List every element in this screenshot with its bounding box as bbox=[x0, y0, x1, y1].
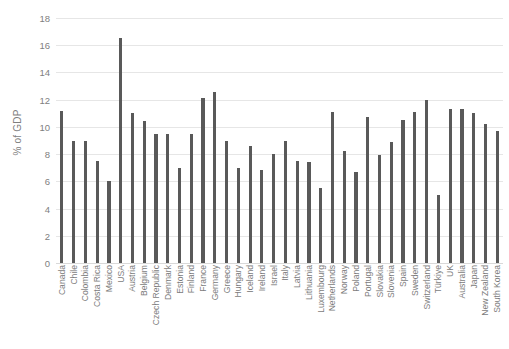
x-label-slot: Estonia bbox=[174, 265, 186, 349]
x-tick-label: New Zealand bbox=[481, 265, 490, 316]
y-tick-label: 10 bbox=[26, 121, 50, 132]
x-label-slot: USA bbox=[115, 265, 127, 349]
x-label-slot: Iceland bbox=[244, 265, 256, 349]
y-tick-label: 8 bbox=[26, 149, 50, 160]
x-tick-label: Slovakia bbox=[375, 265, 384, 297]
bar-chart: % of GDP 024681012141618 CanadaChileColo… bbox=[0, 0, 509, 349]
x-tick-label: Switzerland bbox=[422, 265, 431, 309]
bar-slot bbox=[468, 18, 480, 263]
x-tick-label: Canada bbox=[58, 265, 67, 295]
y-tick-label: 2 bbox=[26, 230, 50, 241]
bar bbox=[401, 120, 404, 263]
x-tick-label: Türkiye bbox=[434, 265, 443, 293]
bar bbox=[354, 172, 357, 263]
x-tick-label: Denmark bbox=[163, 265, 172, 300]
x-tick-label: South Korea bbox=[493, 265, 502, 313]
x-tick-label: Czech Republic bbox=[152, 265, 161, 325]
bar-slot bbox=[385, 18, 397, 263]
bar-slot bbox=[56, 18, 68, 263]
x-label-slot: Greece bbox=[221, 265, 233, 349]
bar-slot bbox=[68, 18, 80, 263]
bar bbox=[449, 109, 452, 263]
x-tick-label: Israel bbox=[269, 265, 278, 286]
bar bbox=[296, 161, 299, 263]
bar-slot bbox=[433, 18, 445, 263]
bar-slot bbox=[374, 18, 386, 263]
x-tick-label: Luxembourg bbox=[316, 265, 325, 313]
bar bbox=[284, 141, 287, 264]
x-label-slot: Slovenia bbox=[385, 265, 397, 349]
x-label-slot: Switzerland bbox=[421, 265, 433, 349]
bar-slot bbox=[397, 18, 409, 263]
bar-slot bbox=[480, 18, 492, 263]
bar bbox=[190, 134, 193, 263]
plot-area bbox=[56, 18, 503, 263]
bar-slot bbox=[409, 18, 421, 263]
bar bbox=[225, 141, 228, 264]
x-label-slot: France bbox=[197, 265, 209, 349]
bar-series bbox=[56, 18, 503, 263]
y-tick-label: 6 bbox=[26, 176, 50, 187]
bar bbox=[72, 141, 75, 264]
x-tick-label: Chile bbox=[69, 265, 78, 285]
y-tick-label: 0 bbox=[26, 258, 50, 269]
bar-slot bbox=[174, 18, 186, 263]
bar bbox=[331, 112, 334, 263]
bar-slot bbox=[268, 18, 280, 263]
x-tick-label: Japan bbox=[469, 265, 478, 288]
x-tick-label: Lithuania bbox=[305, 265, 314, 300]
x-label-slot: Australia bbox=[456, 265, 468, 349]
x-tick-label: Finland bbox=[187, 265, 196, 293]
bar-slot bbox=[350, 18, 362, 263]
x-tick-label: Australia bbox=[458, 265, 467, 298]
bar-slot bbox=[362, 18, 374, 263]
x-tick-label: Ireland bbox=[258, 265, 267, 291]
bar bbox=[84, 141, 87, 264]
y-tick-label: 18 bbox=[26, 13, 50, 24]
x-label-slot: New Zealand bbox=[480, 265, 492, 349]
x-tick-label: Estonia bbox=[175, 265, 184, 294]
x-label-slot: Sweden bbox=[409, 265, 421, 349]
x-tick-label: USA bbox=[116, 265, 125, 283]
bar-slot bbox=[185, 18, 197, 263]
bar-slot bbox=[456, 18, 468, 263]
bar bbox=[178, 168, 181, 263]
x-label-slot: Spain bbox=[397, 265, 409, 349]
y-axis-title-label: % of GDP bbox=[12, 109, 23, 155]
bar-slot bbox=[209, 18, 221, 263]
bar-slot bbox=[280, 18, 292, 263]
x-tick-label: Colombia bbox=[81, 265, 90, 301]
x-tick-label: Latvia bbox=[293, 265, 302, 288]
x-label-slot: Japan bbox=[468, 265, 480, 349]
bar bbox=[119, 38, 122, 263]
bar bbox=[201, 98, 204, 263]
x-tick-label: Costa Rica bbox=[93, 265, 102, 307]
bar-slot bbox=[103, 18, 115, 263]
x-label-slot: Mexico bbox=[103, 265, 115, 349]
bar-slot bbox=[115, 18, 127, 263]
x-label-slot: Chile bbox=[68, 265, 80, 349]
bar-slot bbox=[221, 18, 233, 263]
x-label-slot: Finland bbox=[185, 265, 197, 349]
x-label-slot: Norway bbox=[338, 265, 350, 349]
bar bbox=[366, 117, 369, 263]
y-axis-title: % of GDP bbox=[6, 0, 28, 265]
x-tick-label: Portugal bbox=[363, 265, 372, 297]
bar-slot bbox=[327, 18, 339, 263]
bar bbox=[166, 134, 169, 263]
x-label-slot: Ireland bbox=[256, 265, 268, 349]
x-tick-label: Sweden bbox=[411, 265, 420, 296]
bar bbox=[107, 181, 110, 263]
x-tick-label: Austria bbox=[128, 265, 137, 292]
x-tick-label: UK bbox=[446, 265, 455, 277]
x-label-slot: Türkiye bbox=[433, 265, 445, 349]
x-tick-label: Spain bbox=[399, 265, 408, 287]
y-tick-label: 12 bbox=[26, 94, 50, 105]
bar bbox=[307, 162, 310, 263]
x-tick-label: Mexico bbox=[105, 265, 114, 292]
bar bbox=[390, 142, 393, 263]
x-label-slot: Portugal bbox=[362, 265, 374, 349]
y-axis-tick-labels: 024681012141618 bbox=[26, 18, 50, 263]
x-label-slot: Latvia bbox=[291, 265, 303, 349]
bar-slot bbox=[80, 18, 92, 263]
